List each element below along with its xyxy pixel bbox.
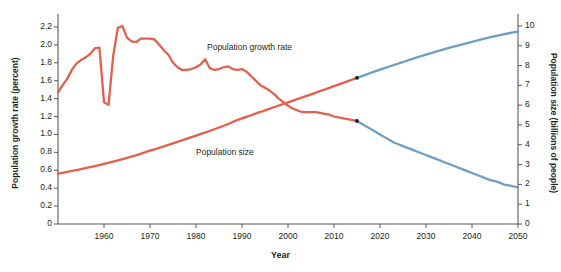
y-tick-label-right: 8 [525,60,549,70]
y-tick-label-right: 7 [525,79,549,89]
y-axis-title-left: Population growth rate (percent) [10,18,20,228]
y-tick-label-right: 6 [525,99,549,109]
x-tick-label: 2010 [314,231,354,241]
y-tick-label-left: 2.0 [16,39,52,49]
series-line-historical-0 [58,26,357,121]
series-line-projection-1 [357,31,518,78]
y-tick-label-left: 0.6 [16,164,52,174]
y-tick-label-right: 1 [525,198,549,208]
y-axis-title-right: Population size (billions of people) [549,18,559,228]
y-tick-label-left: 1.6 [16,75,52,85]
x-tick-label: 2030 [406,231,446,241]
x-tick-label: 2020 [360,231,400,241]
y-tick-label-left: 1.2 [16,111,52,121]
transition-marker-1 [355,76,359,80]
x-tick-label: 1980 [176,231,216,241]
series-line-projection-0 [357,121,518,187]
x-tick-label: 1960 [84,231,124,241]
y-tick-label-left: 0.8 [16,146,52,156]
x-tick-label: 1990 [222,231,262,241]
x-tick-label: 2050 [498,231,538,241]
y-tick-label-right: 3 [525,159,549,169]
y-tick-label-right: 10 [525,20,549,30]
y-tick-label-right: 5 [525,119,549,129]
x-tick-label: 2000 [268,231,308,241]
y-tick-label-left: 1.8 [16,57,52,67]
y-tick-label-left: 0.2 [16,200,52,210]
annotation-population-size: Population size [196,147,254,157]
y-tick-label-right: 0 [525,218,549,228]
transition-markers [355,76,359,123]
transition-marker-0 [355,119,359,123]
y-tick-label-right: 9 [525,40,549,50]
annotation-growth-rate: Population growth rate [207,42,292,52]
x-tick-label: 1970 [130,231,170,241]
y-tick-label-left: 0 [16,218,52,228]
y-tick-label-right: 4 [525,139,549,149]
y-tick-label-left: 2.2 [16,21,52,31]
chart-figure: Population growth rate (percent) Populat… [0,0,561,272]
y-tick-label-left: 0.4 [16,182,52,192]
y-tick-label-left: 1.0 [16,128,52,138]
y-tick-label-left: 1.4 [16,93,52,103]
y-tick-label-right: 2 [525,178,549,188]
x-axis-title: Year [0,250,561,260]
x-tick-label: 2040 [452,231,492,241]
